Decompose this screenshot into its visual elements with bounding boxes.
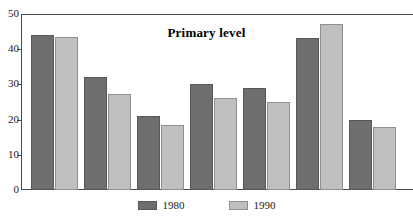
bar-1980-group-2	[84, 77, 107, 190]
dark-gray-swatch	[138, 201, 157, 210]
chart-legend: 19801990	[0, 200, 413, 211]
legend-item-1990[interactable]: 1990	[229, 200, 276, 211]
legend-label: 1980	[163, 200, 185, 211]
y-tick-label: 0	[14, 184, 20, 195]
bar-1980-group-6	[296, 38, 319, 190]
y-axis-tick-labels: 01020304050	[0, 0, 19, 221]
plot-area	[21, 14, 413, 190]
y-tick-label: 50	[8, 8, 19, 19]
bar-1990-group-4	[214, 98, 237, 190]
bar-1990-group-3	[161, 125, 184, 190]
bar-1980-group-4	[190, 84, 213, 190]
bar-1990-group-5	[267, 102, 290, 190]
legend-item-1980[interactable]: 1980	[138, 200, 185, 211]
bar-1980-group-3	[137, 116, 160, 190]
bar-1980-group-7	[349, 120, 372, 190]
bar-1990-group-7	[373, 127, 396, 190]
bar-1990-group-6	[320, 24, 343, 190]
bar-1980-group-5	[243, 88, 266, 190]
bar-chart-screenshot: Primary level 01020304050 19801990	[0, 0, 413, 221]
legend-label: 1990	[254, 200, 276, 211]
bars-layer	[21, 14, 413, 190]
light-gray-swatch	[229, 201, 248, 210]
bar-1990-group-1	[55, 37, 78, 190]
scan-top-remnant	[0, 0, 413, 6]
bar-1980-group-1	[31, 35, 54, 190]
bar-1990-group-2	[108, 94, 131, 190]
